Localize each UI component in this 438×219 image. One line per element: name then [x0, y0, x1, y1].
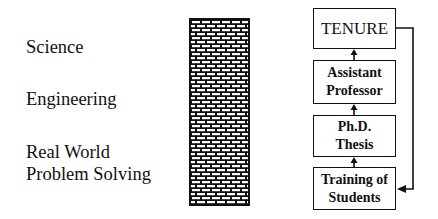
tenure-label: TENURE	[321, 19, 388, 39]
brick-pattern-icon	[191, 20, 248, 204]
arrowhead-up-icon	[351, 104, 358, 110]
label-engineering: Engineering	[26, 88, 116, 110]
training-of-students-box: Training of Students	[313, 167, 396, 210]
arrowhead-up-icon	[351, 49, 358, 55]
assistant-professor-line1: Assistant	[326, 64, 383, 82]
phd-thesis-line1: Ph.D.	[335, 118, 373, 136]
training-line2: Students	[321, 189, 388, 207]
assistant-professor-box: Assistant Professor	[313, 60, 396, 104]
assistant-professor-line2: Professor	[326, 82, 383, 100]
phd-thesis-box: Ph.D. Thesis	[313, 115, 396, 157]
arrowhead-left-icon	[397, 185, 406, 193]
brick-wall	[189, 18, 250, 206]
label-problem-solving: Problem Solving	[26, 163, 151, 185]
phd-thesis-line2: Thesis	[335, 136, 373, 154]
label-science: Science	[26, 36, 84, 58]
tenure-box: TENURE	[313, 8, 396, 49]
feedback-line	[396, 28, 413, 189]
arrowhead-up-icon	[351, 157, 358, 163]
training-line1: Training of	[321, 171, 388, 189]
label-real-world: Real World	[26, 141, 110, 163]
